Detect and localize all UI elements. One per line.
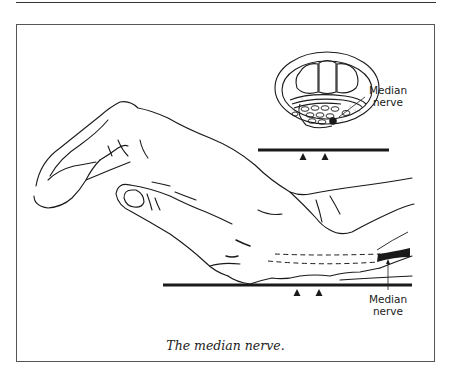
hand-surface-bar xyxy=(163,284,412,287)
wrist-cross-section-icon xyxy=(275,52,379,128)
median-nerve-illustration xyxy=(0,0,456,387)
hand-icon xyxy=(34,102,414,284)
pressure-triangle-icon xyxy=(300,153,307,160)
cross-section-nerve-label: Median nerve xyxy=(366,84,410,108)
label-line: nerve xyxy=(366,305,410,317)
label-line: nerve xyxy=(366,96,410,108)
pressure-triangle-icon xyxy=(294,289,301,296)
figure-caption: The median nerve. xyxy=(16,338,435,353)
median-nerve-path-icon xyxy=(268,254,380,264)
pressure-triangle-icon xyxy=(322,153,329,160)
inset-surface-bar xyxy=(258,149,389,152)
median-nerve-exit-icon xyxy=(377,248,410,262)
label-line: Median xyxy=(366,293,410,305)
label-line: Median xyxy=(366,84,410,96)
hand-nerve-label: Median nerve xyxy=(366,293,410,317)
pressure-triangle-icon xyxy=(316,289,323,296)
